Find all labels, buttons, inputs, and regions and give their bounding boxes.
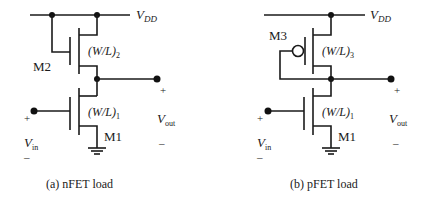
input-terminal	[265, 108, 272, 115]
vdd-label: VDD	[370, 7, 391, 24]
caption-b: (b) pFET load	[290, 177, 358, 191]
m3-label: M3	[269, 28, 287, 43]
caption-a: (a) nFET load	[46, 177, 113, 191]
vin-minus: –	[23, 151, 30, 163]
m1-ratio-label: (W/L)1	[88, 105, 120, 121]
vin-plus: +	[24, 112, 30, 124]
ground-icon	[322, 148, 340, 154]
m1-ratio-label: (W/L)1	[322, 105, 354, 121]
output-terminal	[388, 76, 395, 83]
m3-ratio-label: (W/L)3	[322, 44, 354, 60]
m1-source	[79, 126, 97, 148]
m1-label: M1	[104, 129, 122, 144]
m1-drain	[313, 79, 331, 96]
vout-label: Vout	[157, 111, 176, 128]
vout-label: Vout	[389, 111, 408, 128]
vin-plus: +	[257, 112, 263, 124]
vout-plus: +	[394, 84, 400, 96]
m1-label: M1	[338, 129, 356, 144]
m2-drain	[79, 15, 97, 35]
vout-minus: –	[158, 137, 165, 149]
m2-source	[79, 66, 97, 79]
ground-icon	[88, 148, 106, 154]
vout-minus: –	[392, 137, 399, 149]
m2-label: M2	[33, 59, 51, 74]
m3-source	[313, 15, 331, 35]
pmos-bubble-icon	[293, 46, 304, 57]
vdd-label: VDD	[136, 7, 157, 24]
m2-ratio-label: (W/L)2	[88, 44, 120, 60]
m2-gate-wire	[52, 15, 70, 52]
vin-minus: –	[256, 151, 263, 163]
panel-b-pfet-load: VDD M3 (W/L)3 + Vout – (W/L)1 M1	[256, 7, 408, 191]
vin-label: Vin	[257, 135, 271, 152]
m1-source	[313, 126, 331, 148]
circuit-diagram: VDD M2 (W/L)2 + Vout – (W/L)1 M1	[0, 0, 421, 203]
m3-drain	[313, 66, 331, 79]
input-terminal	[31, 108, 38, 115]
output-terminal	[154, 76, 161, 83]
panel-a-nfet-load: VDD M2 (W/L)2 + Vout – (W/L)1 M1	[23, 7, 176, 191]
vin-label: Vin	[24, 135, 38, 152]
vout-plus: +	[160, 84, 166, 96]
